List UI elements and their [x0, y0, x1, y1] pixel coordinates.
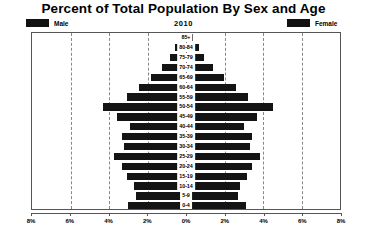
- bar-female-5-9: [186, 192, 238, 199]
- x-tick-label: 4%: [259, 218, 268, 224]
- pyramid-row: 75-79: [32, 53, 340, 63]
- age-group-label-70-74: 70-74: [177, 63, 195, 72]
- pyramid-row: 80-84: [32, 43, 340, 53]
- chart-year-label: 2010: [0, 19, 367, 28]
- x-tick: [31, 213, 32, 216]
- age-group-label-25-29: 25-29: [177, 152, 195, 161]
- x-tick-label: 8%: [27, 218, 36, 224]
- pyramid-row: 50-54: [32, 102, 340, 112]
- age-group-label-75-79: 75-79: [177, 53, 195, 62]
- pyramid-row: 45-49: [32, 112, 340, 122]
- x-tick-label: 8%: [337, 218, 346, 224]
- pyramid-row: 55-59: [32, 92, 340, 102]
- x-tick-label: 6%: [298, 218, 307, 224]
- age-group-label-20-24: 20-24: [177, 162, 195, 171]
- pyramid-row: 5-9: [32, 191, 340, 201]
- bar-female-50-54: [186, 103, 273, 110]
- bar-female-20-24: [186, 163, 252, 170]
- age-group-label-80-84: 80-84: [177, 43, 195, 52]
- x-tick-label: 2%: [220, 218, 229, 224]
- pyramid-row: 30-34: [32, 142, 340, 152]
- pyramid-row: 60-64: [32, 82, 340, 92]
- age-group-label-30-34: 30-34: [177, 142, 195, 151]
- bar-male-50-54: [103, 103, 186, 110]
- bar-male-5-9: [136, 192, 186, 199]
- bar-female-25-29: [186, 153, 260, 160]
- pyramid-row: 40-44: [32, 122, 340, 132]
- pyramid-row: 20-24: [32, 162, 340, 172]
- pyramid-row: 70-74: [32, 63, 340, 73]
- x-tick: [147, 213, 148, 216]
- bar-male-25-29: [114, 153, 186, 160]
- bar-female-0-4: [186, 202, 246, 209]
- age-group-label-85+: 85+: [179, 33, 192, 42]
- pyramid-row: 25-29: [32, 152, 340, 162]
- plot-area: 85+80-8475-7970-7465-6960-6455-5950-5445…: [31, 32, 341, 210]
- x-tick-label: 2%: [143, 218, 152, 224]
- bar-male-0-4: [128, 202, 186, 209]
- age-group-label-10-14: 10-14: [177, 182, 195, 191]
- x-axis: 8%6%4%2%0%2%4%6%8%: [31, 213, 341, 214]
- age-group-label-15-19: 15-19: [177, 172, 195, 181]
- x-tick: [264, 213, 265, 216]
- x-tick: [109, 213, 110, 216]
- population-pyramid-chart: Percent of Total Population By Sex and A…: [0, 0, 367, 236]
- chart-title: Percent of Total Population By Sex and A…: [0, 1, 367, 16]
- pyramid-row: 35-39: [32, 132, 340, 142]
- pyramid-rows: 85+80-8475-7970-7465-6960-6455-5950-5445…: [32, 33, 340, 209]
- x-tick-label: 6%: [65, 218, 74, 224]
- age-group-label-65-69: 65-69: [177, 73, 195, 82]
- age-group-label-0-4: 0-4: [180, 201, 192, 210]
- age-group-label-35-39: 35-39: [177, 132, 195, 141]
- age-group-label-55-59: 55-59: [177, 93, 195, 102]
- age-group-label-60-64: 60-64: [177, 83, 195, 92]
- bar-female-35-39: [186, 133, 252, 140]
- pyramid-row: 10-14: [32, 181, 340, 191]
- age-group-label-40-44: 40-44: [177, 122, 195, 131]
- x-tick-label: 0%: [182, 218, 191, 224]
- age-group-label-50-54: 50-54: [177, 102, 195, 111]
- pyramid-row: 65-69: [32, 73, 340, 83]
- x-tick: [70, 213, 71, 216]
- bar-female-55-59: [186, 93, 248, 100]
- pyramid-row: 0-4: [32, 201, 340, 210]
- pyramid-row: 15-19: [32, 171, 340, 181]
- bar-female-30-34: [186, 143, 250, 150]
- x-tick-label: 4%: [104, 218, 113, 224]
- x-tick: [225, 213, 226, 216]
- bar-female-15-19: [186, 173, 247, 180]
- bar-male-45-49: [117, 113, 186, 120]
- x-tick: [186, 213, 187, 216]
- age-group-label-5-9: 5-9: [180, 191, 192, 200]
- pyramid-row: 85+: [32, 33, 340, 43]
- x-tick: [302, 213, 303, 216]
- bar-female-45-49: [186, 113, 257, 120]
- x-tick: [341, 213, 342, 216]
- age-group-label-45-49: 45-49: [177, 112, 195, 121]
